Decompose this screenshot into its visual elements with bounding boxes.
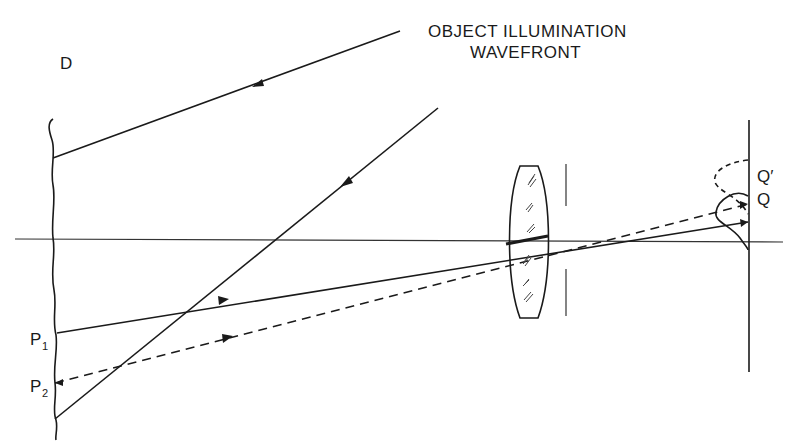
arrow-ray-p1	[218, 296, 229, 305]
arrow-ray-upper	[252, 79, 264, 87]
label-q: Q	[757, 190, 770, 209]
ray-p1-to-q	[57, 222, 748, 333]
arrow-p2-point	[55, 379, 63, 386]
wavefront-d	[49, 119, 57, 440]
illumination-ray-diagonal	[55, 108, 438, 419]
label-qprime: Q′	[757, 167, 773, 186]
label-p1: P	[30, 330, 41, 349]
optics-diagram: OBJECT ILLUMINATION WAVEFRONT D Q′	[0, 0, 803, 448]
lens-ray-crossing	[506, 236, 548, 244]
ray-p2-to-qprime	[55, 204, 748, 383]
label-p2-sub: 2	[42, 387, 48, 399]
title-line2: WAVEFRONT	[470, 43, 581, 62]
label-d: D	[60, 54, 72, 73]
label-p2: P	[30, 377, 41, 396]
arrow-ray-p2	[222, 334, 233, 343]
title-line1: OBJECT ILLUMINATION	[428, 22, 627, 41]
label-p1-sub: 1	[42, 340, 48, 352]
optical-axis	[15, 239, 783, 242]
illumination-ray-upper	[53, 31, 400, 158]
